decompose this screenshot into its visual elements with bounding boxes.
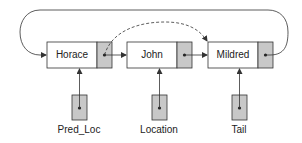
pointer-label-location: Location: [129, 124, 189, 135]
pointer-tail: [232, 69, 247, 120]
linked-list-diagram: [0, 0, 302, 143]
pointer-location: [152, 69, 167, 120]
node-label-horace: Horace: [47, 49, 97, 60]
pointer-pred-loc: [72, 69, 87, 120]
node-label-john: John: [127, 49, 177, 60]
pointer-label-tail: Tail: [209, 124, 269, 135]
pointer-label-pred-loc: Pred_Loc: [49, 124, 109, 135]
node-label-mildred: Mildred: [208, 49, 258, 60]
